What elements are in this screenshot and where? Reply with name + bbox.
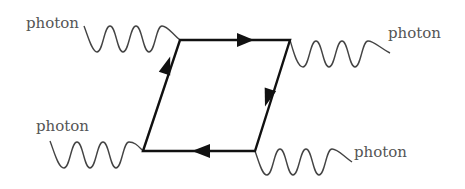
photon-line-top-right [290,40,390,67]
photon-line-bottom-left [50,141,143,168]
feynman-diagram: photon photon photon photon [0,0,465,189]
photon-line-top-left [84,26,180,52]
arrow-bottom-edge-left [192,144,210,158]
arrow-top-edge-right [237,33,254,47]
label-photon-bottom-right: photon [354,143,407,161]
photon-line-bottom-right [255,149,352,175]
label-photon-top-left: photon [26,14,79,32]
label-photon-bottom-left: photon [36,117,89,135]
arrow-right-edge-down [259,88,276,109]
label-photon-top-right: photon [388,24,441,42]
